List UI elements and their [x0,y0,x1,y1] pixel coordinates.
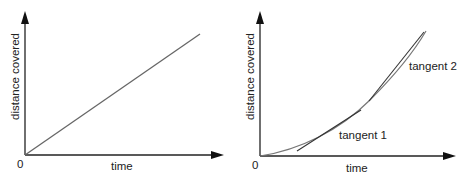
right-origin-label: 0 [252,159,258,171]
tangent-1-label: tangent 1 [339,129,387,141]
tangent-2-label: tangent 2 [409,60,457,72]
right-graph: tangent 1 tangent 2 0 time distance cove… [244,11,457,174]
left-distance-line [25,34,200,155]
right-x-axis-arrow-icon [443,152,456,160]
left-graph: 0 time distance covered [9,11,224,172]
left-x-axis-label: time [111,160,133,172]
left-origin-label: 0 [17,158,23,170]
right-y-axis-label: distance covered [244,33,256,120]
left-y-axis-label: distance covered [9,33,21,120]
right-x-axis-label: time [346,162,368,174]
right-y-axis-arrow-icon [256,11,264,24]
left-x-axis-arrow-icon [211,151,224,159]
left-y-axis-arrow-icon [21,11,29,24]
diagram-canvas: 0 time distance covered tangent 1 tangen… [0,0,464,183]
